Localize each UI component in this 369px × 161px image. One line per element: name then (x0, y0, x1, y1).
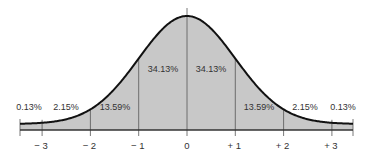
x-tick-label: + 1 (228, 140, 241, 151)
curve-area (20, 16, 353, 130)
region-label: 34.13% (196, 64, 227, 74)
x-tick-label: − 1 (131, 140, 144, 151)
region-label: 2.15% (53, 102, 79, 112)
area-fill (20, 16, 353, 130)
x-tick-label: 0 (184, 140, 189, 151)
tick-labels: − 3− 2− 10+ 1+ 2+ 3 (34, 140, 337, 151)
region-label: 0.13% (16, 102, 42, 112)
region-label: 0.13% (330, 102, 356, 112)
normal-distribution-chart: 0.13%2.15%13.59%34.13%34.13%13.59%2.15%0… (0, 0, 369, 161)
x-tick-label: − 3 (34, 140, 47, 151)
region-label: 13.59% (244, 102, 275, 112)
x-tick-label: + 2 (276, 140, 289, 151)
region-label: 2.15% (292, 102, 318, 112)
region-label: 13.59% (100, 102, 131, 112)
x-tick-label: + 3 (324, 140, 337, 151)
region-label: 34.13% (148, 64, 179, 74)
x-tick-label: − 2 (83, 140, 96, 151)
